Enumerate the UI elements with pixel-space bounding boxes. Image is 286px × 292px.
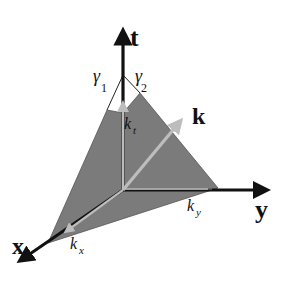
k-vector-label: k xyxy=(192,103,206,129)
gamma1-line xyxy=(107,75,123,110)
ky-label: k xyxy=(187,197,195,214)
diagram-canvas: t y x k γ 1 γ 2 k t k y k x xyxy=(0,0,286,292)
gamma1-label: γ xyxy=(93,66,101,86)
kt-label: k xyxy=(124,115,132,132)
kx-sub: x xyxy=(78,244,84,256)
ky-sub: y xyxy=(195,206,201,218)
x-axis-label: x xyxy=(12,233,24,259)
y-axis-label: y xyxy=(255,195,268,224)
gamma1-sub: 1 xyxy=(101,81,107,95)
kx-label: k xyxy=(70,235,78,252)
t-axis-label: t xyxy=(130,23,139,52)
gamma2-sub: 2 xyxy=(141,81,147,95)
